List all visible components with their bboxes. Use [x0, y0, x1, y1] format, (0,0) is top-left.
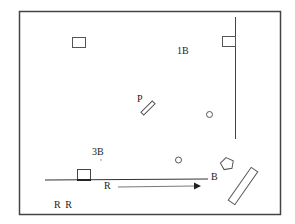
top-left-box	[73, 38, 86, 48]
outer-frame	[20, 12, 281, 215]
runner-arrow-line	[118, 186, 194, 187]
runner-label: R	[104, 181, 111, 191]
pitcher-label: P	[137, 94, 143, 104]
pentagon-shape	[220, 156, 235, 170]
diagram-canvas: 1B P 3B R B R R	[0, 0, 295, 224]
base-label: B	[211, 172, 218, 182]
baseline	[45, 179, 208, 180]
long-diagonal-bar	[228, 167, 257, 204]
third-base-label: 3B	[92, 147, 104, 157]
pitcher-bar	[141, 101, 155, 115]
diagram-svg	[0, 0, 295, 224]
small-circle-lower	[176, 157, 182, 163]
small-dot	[100, 159, 101, 160]
first-base-box	[223, 37, 236, 47]
arrow-head-icon	[194, 183, 201, 190]
first-base-label: 1B	[177, 46, 189, 56]
third-base-box	[78, 170, 91, 181]
runners-bottom-label: R R	[54, 200, 72, 210]
small-circle-right	[207, 112, 213, 118]
